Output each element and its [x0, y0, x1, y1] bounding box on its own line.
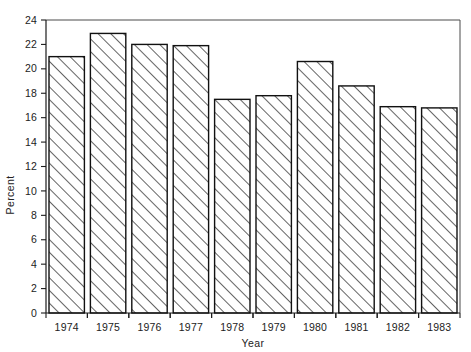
bar [380, 107, 415, 313]
x-tick-label: 1977 [179, 321, 203, 333]
x-tick-label: 1974 [55, 321, 79, 333]
bar [422, 108, 457, 313]
y-tick-label: 4 [31, 258, 37, 270]
y-tick-label: 18 [25, 87, 37, 99]
chart-canvas: 024681012141618202224 197419751976197719… [0, 0, 471, 352]
bar [339, 86, 374, 313]
y-tick-label: 12 [25, 160, 37, 172]
x-axis-label: Year [242, 337, 265, 349]
y-axis-label: Percent [4, 176, 16, 215]
x-tick-label: 1983 [427, 321, 451, 333]
x-tick-label: 1980 [303, 321, 327, 333]
y-tick-label: 16 [25, 111, 37, 123]
bar [90, 33, 125, 313]
x-tick-label: 1981 [344, 321, 368, 333]
x-tick-label: 1976 [137, 321, 161, 333]
x-tick-label: 1982 [386, 321, 410, 333]
y-tick-label: 0 [31, 307, 37, 319]
y-tick-label: 2 [31, 282, 37, 294]
bar [173, 46, 208, 313]
y-tick-label: 22 [25, 38, 37, 50]
x-tick-label: 1975 [96, 321, 120, 333]
bar [49, 57, 84, 313]
bar [297, 62, 332, 313]
y-tick-label: 8 [31, 209, 37, 221]
bar [256, 96, 291, 313]
y-tick-label: 14 [25, 136, 37, 148]
y-tick-label: 20 [25, 62, 37, 74]
x-tick-label: 1979 [262, 321, 286, 333]
y-tick-label: 10 [25, 185, 37, 197]
y-tick-label: 6 [31, 233, 37, 245]
bar-chart-figure: 024681012141618202224 197419751976197719… [0, 0, 471, 352]
bar [132, 44, 167, 313]
bar [215, 99, 250, 313]
y-tick-label: 24 [25, 14, 37, 26]
x-tick-label: 1978 [220, 321, 244, 333]
